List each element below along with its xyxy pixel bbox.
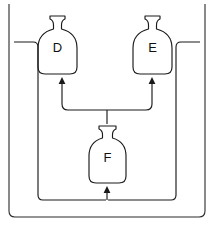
vessel-e[interactable]: E — [133, 16, 172, 74]
arrowhead-into-f-icon — [104, 186, 111, 193]
vessel-f[interactable]: F — [89, 126, 126, 183]
arrowhead-into-d-icon — [59, 77, 66, 84]
vessel-d-label: D — [53, 40, 62, 55]
flow-diagram-svg: D E F — [0, 0, 215, 227]
arrowhead-into-e-icon — [149, 77, 156, 84]
vessel-e-label: E — [148, 40, 157, 55]
flow-diagram-canvas: D E F — [0, 0, 215, 227]
connector-e-return-loop — [108, 42, 200, 200]
connector-f-to-e-branch — [107, 82, 152, 110]
vessel-d[interactable]: D — [38, 16, 77, 74]
connector-d-return-loop — [14, 42, 106, 200]
vessel-f-label: F — [104, 150, 112, 165]
connector-f-to-d-branch — [62, 82, 107, 110]
